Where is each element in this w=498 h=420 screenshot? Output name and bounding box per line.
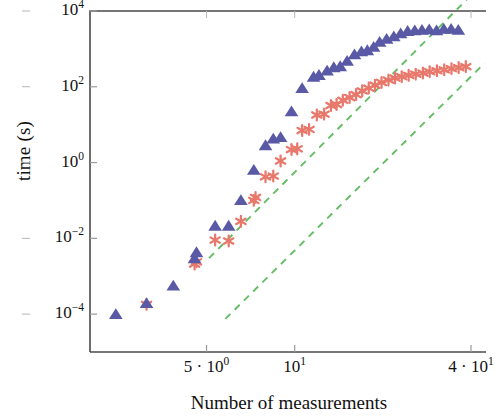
series-triangles (109, 23, 465, 319)
data-point-asterisk (210, 235, 219, 246)
data-point-triangle (222, 220, 236, 231)
series-asterisks (142, 61, 471, 310)
data-point-asterisk (224, 236, 233, 247)
data-point-asterisk (276, 156, 285, 167)
data-point-triangle (295, 82, 309, 93)
data-point-triangle (274, 131, 288, 142)
reference-lines (209, 0, 485, 319)
axis-frame (90, 11, 486, 352)
data-point-asterisk (236, 216, 245, 227)
data-point-triangle (208, 220, 222, 231)
data-point-triangle (247, 164, 261, 175)
data-point-triangle (285, 105, 299, 116)
data-point-triangle (190, 246, 204, 257)
data-point-triangle (109, 308, 123, 319)
data-point-triangle (234, 194, 248, 205)
data-point-triangle (166, 280, 180, 291)
